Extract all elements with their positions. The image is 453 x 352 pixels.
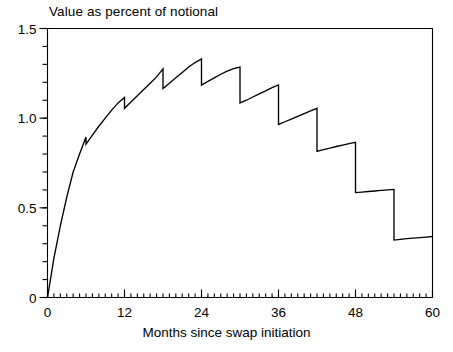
y-tick-label: 1.5	[18, 22, 37, 37]
y-tick-label: 1.0	[18, 111, 37, 126]
y-axis-ticks: 00.51.01.5	[18, 22, 48, 306]
series-line	[48, 59, 433, 298]
x-tick-label: 12	[117, 305, 132, 320]
chart-figure: Value as percent of notional 00.51.01.5 …	[0, 0, 453, 352]
x-tick-label: 36	[271, 305, 286, 320]
x-tick-label: 24	[194, 305, 210, 320]
x-tick-label: 60	[425, 305, 440, 320]
x-tick-label: 0	[44, 305, 52, 320]
chart-canvas: 00.51.01.5 01224364860	[0, 0, 453, 352]
x-tick-label: 48	[348, 305, 363, 320]
y-tick-label: 0.5	[18, 201, 37, 216]
x-axis-label: Months since swap initiation	[0, 325, 453, 340]
x-axis-ticks: 01224364860	[44, 290, 440, 320]
data-series	[48, 59, 433, 298]
y-tick-label: 0	[29, 291, 37, 306]
